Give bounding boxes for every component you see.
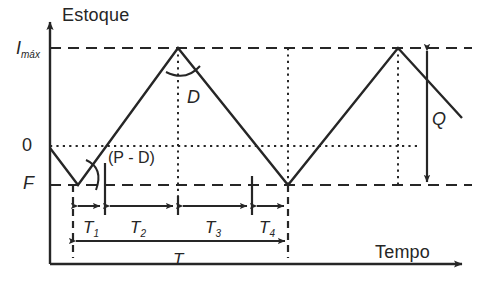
interval-t2-subscript: 2 (140, 228, 146, 239)
interval-label-t4: T4 (259, 219, 275, 236)
interval-t3-base: T (205, 218, 215, 237)
cycle-label-t: T (173, 251, 183, 268)
y-axis-label: Estoque (62, 6, 129, 24)
interval-t1-subscript: 1 (93, 228, 99, 239)
interval-t1-base: T (83, 218, 93, 237)
slope-label-p-minus-d: (P - D) (108, 150, 155, 166)
interval-t3-subscript: 3 (215, 228, 221, 239)
interval-t4-base: T (259, 218, 269, 237)
interval-t2-base: T (130, 218, 140, 237)
interval-label-t1: T1 (83, 219, 99, 236)
y-tick-label-zero: 0 (22, 136, 32, 154)
quantity-label-q: Q (432, 110, 446, 128)
slope-label-d: D (187, 88, 200, 106)
inventory-sawtooth-diagram: Estoque Tempo Imáx 0 F (P - D) D Q T1 T2… (0, 0, 483, 289)
y-tick-label-imax: Imáx (16, 39, 40, 57)
interval-label-t2: T2 (130, 219, 146, 236)
interval-label-t3: T3 (205, 219, 221, 236)
y-tick-label-f: F (23, 174, 34, 192)
interval-t4-subscript: 4 (269, 228, 275, 239)
x-axis-label: Tempo (375, 243, 430, 261)
y-tick-imax-subscript: máx (21, 49, 40, 60)
